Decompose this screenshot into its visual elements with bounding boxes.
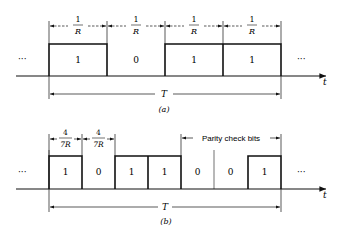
svg-text:7R: 7R [93,140,104,149]
bit-value: 1 [162,167,168,177]
period-label-b: T [162,202,169,212]
caption-b: (b) [160,217,171,226]
parity-check-bits-label: Parity check bits [202,134,260,143]
svg-text:1: 1 [75,15,80,24]
ellipsis-right-a: ··· [297,54,306,64]
svg-text:R: R [74,27,81,36]
bit-duration-label: 4 7R [92,128,105,149]
svg-text:4: 4 [96,128,101,137]
bit-duration-label: 1 R [73,15,83,36]
svg-text:1: 1 [249,15,254,24]
coding-timing-diagram: t ··· ··· 1 0 1 1 [0,0,352,240]
bit-value: 1 [191,55,197,65]
caption-a: (a) [158,105,169,114]
bit-value: 1 [75,55,81,65]
bit-value: 0 [133,55,139,65]
bit-value: 0 [195,167,201,177]
panel-a: t ··· ··· 1 0 1 1 [16,15,327,114]
bit-value: 1 [262,167,268,177]
bit-value: 1 [129,167,135,177]
bit-duration-label: 1 R [247,15,257,36]
bit-value: 1 [249,55,255,65]
svg-text:R: R [132,27,139,36]
svg-text:4: 4 [63,128,68,137]
bit-duration-label: 1 R [131,15,141,36]
svg-text:1: 1 [191,15,196,24]
bit-value: 0 [228,167,234,177]
ellipsis-right-b: ··· [297,167,306,177]
bit-value: 0 [96,167,102,177]
ellipsis-left-a: ··· [18,54,27,64]
bit-duration-label: 1 R [189,15,199,36]
svg-text:R: R [190,27,197,36]
ellipsis-left-b: ··· [18,167,27,177]
bit-value: 1 [63,167,69,177]
bit-duration-label: 4 7R [59,128,72,149]
pulse-waveform-a [49,44,281,76]
axis-label-t-a: t [323,77,327,87]
period-label-a: T [161,89,168,99]
svg-text:1: 1 [133,15,138,24]
panel-b: t ··· ··· 1 0 1 1 0 0 1 [16,128,327,226]
svg-text:7R: 7R [60,140,71,149]
svg-text:R: R [248,27,255,36]
axis-label-t-b: t [323,190,327,200]
